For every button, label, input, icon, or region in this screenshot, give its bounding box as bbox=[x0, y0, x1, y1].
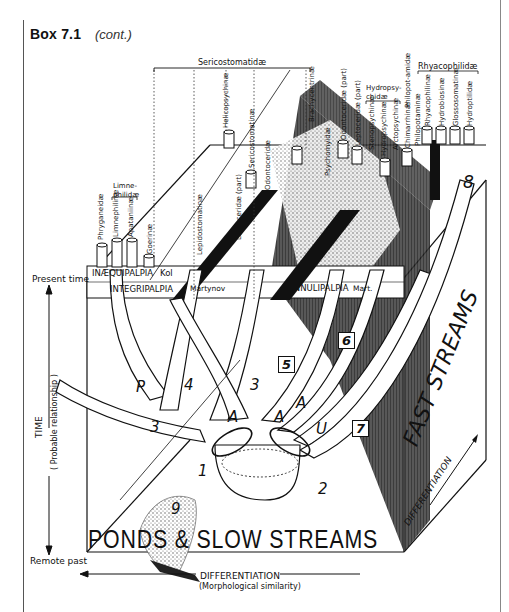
group-rhyacophilidae: Rhyacophilidæ bbox=[418, 62, 477, 71]
band-integripalpia: INTEGRIPALPIA bbox=[110, 284, 173, 294]
taxon-label: Leptoceridæ (part) bbox=[354, 80, 362, 146]
taxon-label: Hydroptilidæ bbox=[466, 81, 474, 126]
taxon-label: Goerinæ bbox=[146, 224, 154, 254]
differentiation-label: DIFFERENTIATION bbox=[200, 571, 280, 581]
taxon-label: Phryganeidæ bbox=[97, 194, 105, 240]
marker-a-right: A bbox=[296, 394, 306, 412]
time-axis-label: TIME bbox=[34, 416, 44, 438]
differentiation-sublabel: (Morphological similarity) bbox=[199, 582, 301, 591]
present-time-label: Present time bbox=[32, 274, 89, 284]
taxon-label: Leptoceridæ (part) bbox=[235, 174, 243, 240]
phylogeny-figure bbox=[0, 0, 509, 612]
taxon-label: Arctopsychinæ bbox=[392, 98, 400, 150]
taxon-label: Glossosomatinæ bbox=[452, 68, 460, 126]
band-kol: Kol bbox=[160, 268, 173, 278]
taxon-label: Psychomyidæ bbox=[324, 127, 332, 176]
marker-8: 8 bbox=[463, 172, 474, 192]
taxon-label: Odontoceridæ (part) bbox=[340, 68, 348, 140]
taxon-label: Apataniinæ bbox=[127, 197, 135, 237]
ponds-slow-streams-label: PONDS & SLOW STREAMS bbox=[88, 524, 378, 555]
group-philopotamidae: Philopot-amidæ bbox=[404, 53, 412, 108]
band-mart: Mart. bbox=[353, 284, 372, 293]
group-sericostomatidae: Sericostomatidæ bbox=[198, 58, 266, 67]
marker-3-left: 3 bbox=[150, 418, 160, 436]
taxon-label: Hydrobiosinæ bbox=[438, 78, 446, 126]
marker-5: 5 bbox=[278, 356, 295, 373]
marker-9: 9 bbox=[171, 500, 181, 518]
marker-a-center: A bbox=[274, 408, 284, 426]
remote-past-label: Remote past bbox=[30, 556, 87, 566]
taxon-label: Limnephilinæ bbox=[112, 190, 120, 237]
taxon-label: Rhyacophilinæ bbox=[424, 74, 432, 126]
marker-a-left: A bbox=[228, 408, 238, 426]
taxon-label: Stenopsychinæ bbox=[368, 96, 376, 150]
time-axis-sublabel: ( Probable relationship ) bbox=[50, 374, 59, 470]
taxon-label: Odontoceridæ bbox=[264, 140, 272, 190]
taxon-label: Helicopsychinæ bbox=[222, 73, 230, 128]
marker-4: 4 bbox=[184, 376, 194, 394]
taxon-label: Lepidostomatinæ bbox=[196, 194, 204, 255]
taxon-label: Hydropsychinæ bbox=[380, 101, 388, 156]
band-annulipalpia: ANNULIPALPIA bbox=[288, 283, 349, 293]
marker-6: 6 bbox=[338, 332, 355, 349]
marker-1: 1 bbox=[198, 462, 208, 480]
marker-u: U bbox=[316, 420, 327, 438]
band-inaequipalpia: INÆQUIPALPIA bbox=[92, 268, 153, 278]
taxon-label: Brachycentrinæ bbox=[308, 66, 316, 122]
band-martynov: Martynov bbox=[190, 284, 225, 293]
taxon-label: Sericostomatinæ bbox=[248, 109, 256, 169]
marker-7: 7 bbox=[352, 420, 369, 437]
marker-p: P bbox=[136, 378, 145, 396]
taxon-label: Chimarrhinæ bbox=[404, 102, 412, 148]
taxon-label: Philopotaminæ bbox=[414, 93, 422, 146]
marker-3-center: 3 bbox=[250, 376, 260, 394]
marker-2: 2 bbox=[318, 480, 328, 498]
